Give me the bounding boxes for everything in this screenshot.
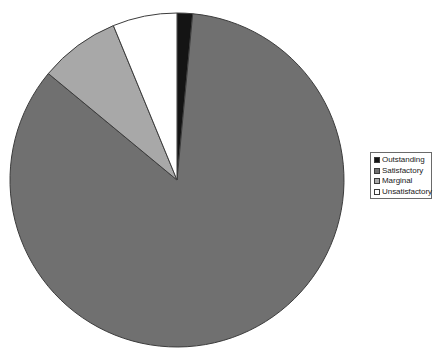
pie-chart-canvas (0, 0, 433, 361)
legend-label-satisfactory: Satisfactory (382, 166, 423, 177)
legend-swatch-unsatisfactory (374, 189, 380, 195)
legend-item-unsatisfactory[interactable]: Unsatisfactory (374, 187, 429, 198)
legend-swatch-outstanding (374, 157, 380, 163)
chart-legend: Outstanding Satisfactory Marginal Unsati… (370, 152, 432, 199)
pie-chart-figure: Outstanding Satisfactory Marginal Unsati… (0, 0, 433, 361)
legend-item-outstanding[interactable]: Outstanding (374, 155, 429, 166)
legend-label-marginal: Marginal (382, 176, 412, 187)
legend-label-unsatisfactory: Unsatisfactory (382, 187, 432, 198)
legend-swatch-satisfactory (374, 168, 380, 174)
legend-swatch-marginal (374, 178, 380, 184)
legend-label-outstanding: Outstanding (382, 155, 425, 166)
legend-item-satisfactory[interactable]: Satisfactory (374, 166, 429, 177)
legend-item-marginal[interactable]: Marginal (374, 176, 429, 187)
